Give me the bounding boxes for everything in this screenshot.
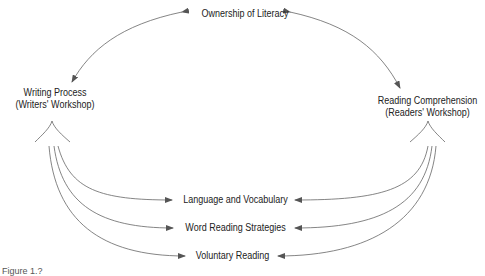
- node-writing-process-sub: (Writers' Workshop): [6, 99, 105, 111]
- node-ownership-of-literacy: Ownership of Literacy: [191, 8, 299, 20]
- node-writing-process: Writing Process: [6, 87, 105, 99]
- node-voluntary-reading: Voluntary Reading: [190, 250, 276, 262]
- arrow-ownership-writing: [72, 12, 182, 82]
- bracket-writing: [35, 121, 70, 142]
- node-reading-comprehension: Reading Comprehension: [376, 95, 480, 107]
- bracket-reading: [410, 121, 445, 142]
- node-language-and-vocabulary: Language and Vocabulary: [179, 194, 292, 206]
- node-word-reading-strategies: Word Reading Strategies: [179, 222, 292, 234]
- figure-caption: Figure 1.?: [2, 266, 43, 276]
- node-reading-comprehension-sub: (Readers' Workshop): [376, 107, 480, 119]
- arrow-ownership-reading: [290, 12, 400, 88]
